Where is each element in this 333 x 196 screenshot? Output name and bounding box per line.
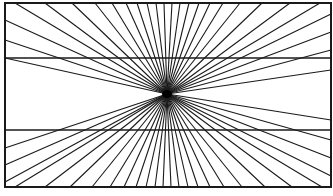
ray-line bbox=[126, 3, 167, 94]
ray-line bbox=[167, 3, 320, 94]
ray-line bbox=[5, 94, 167, 148]
vanishing-point bbox=[162, 90, 172, 98]
ray-line bbox=[92, 94, 167, 187]
ray-line bbox=[5, 20, 167, 94]
ray-line bbox=[167, 94, 242, 187]
ray-line bbox=[167, 94, 292, 187]
convergence-point bbox=[162, 90, 172, 98]
ray-line bbox=[15, 3, 167, 94]
ray-line bbox=[15, 94, 167, 187]
ray-line bbox=[72, 3, 167, 94]
ray-line bbox=[167, 94, 322, 187]
ray-line bbox=[167, 94, 331, 120]
ray-line bbox=[167, 94, 198, 187]
diagram-canvas bbox=[0, 0, 333, 196]
ray-line bbox=[5, 40, 167, 94]
ray-line bbox=[167, 50, 331, 94]
ray-line bbox=[5, 94, 167, 182]
